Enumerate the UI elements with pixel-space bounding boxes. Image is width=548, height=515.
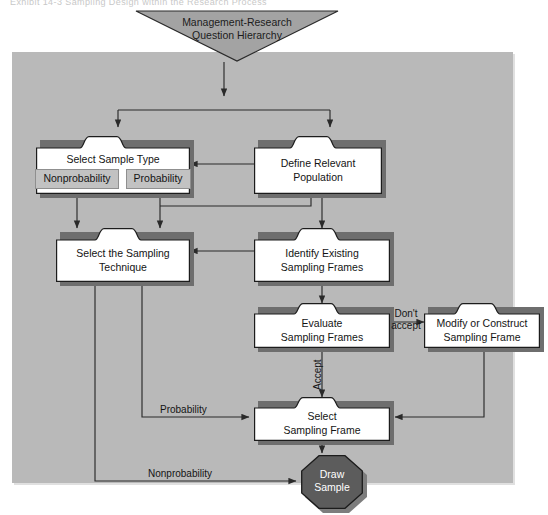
node-select-sampling-frame[interactable]: Select Sampling Frame xyxy=(254,397,390,441)
diagram-canvas: Exhibit 14-3 Sampling Design within the … xyxy=(0,0,548,515)
edge-label-line-1: Don't xyxy=(385,308,427,320)
edge-label-line-1: Probability xyxy=(160,404,207,416)
exhibit-caption: Exhibit 14-3 Sampling Design within the … xyxy=(10,0,267,7)
node-select-sample-type[interactable]: Select Sample Type Nonprobability Probab… xyxy=(36,136,190,194)
octagon-body xyxy=(301,455,363,509)
edge-label-nonprobability: Nonprobability xyxy=(148,468,212,480)
edge-label-line-2: accept xyxy=(385,320,427,332)
node-identify-existing-sampling-frames[interactable]: Identify Existing Sampling Frames xyxy=(254,228,390,282)
edge-label-probability: Probability xyxy=(160,404,207,416)
edge-label-line-1: Accept xyxy=(312,359,324,390)
end-node-draw-sample[interactable]: Draw Sample xyxy=(301,455,363,509)
node-select-the-sampling-technique[interactable]: Select the Sampling Technique xyxy=(56,228,190,282)
sample-type-options: Nonprobability Probability xyxy=(36,169,190,189)
option-probability[interactable]: Probability xyxy=(126,169,191,189)
option-nonprobability[interactable]: Nonprobability xyxy=(35,169,118,189)
edge-label-dont-accept: Don't accept xyxy=(385,308,427,332)
edge-label-accept: Accept xyxy=(312,359,324,390)
node-evaluate-sampling-frames[interactable]: Evaluate Sampling Frames xyxy=(254,303,390,348)
edge-label-line-1: Nonprobability xyxy=(148,468,212,480)
start-node-management-research-question-hierarchy: Management-Research Question Hierarchy xyxy=(133,9,341,63)
node-define-relevant-population[interactable]: Define Relevant Population xyxy=(254,136,382,194)
node-modify-or-construct-sampling-frame[interactable]: Modify or Construct Sampling Frame xyxy=(424,303,540,348)
